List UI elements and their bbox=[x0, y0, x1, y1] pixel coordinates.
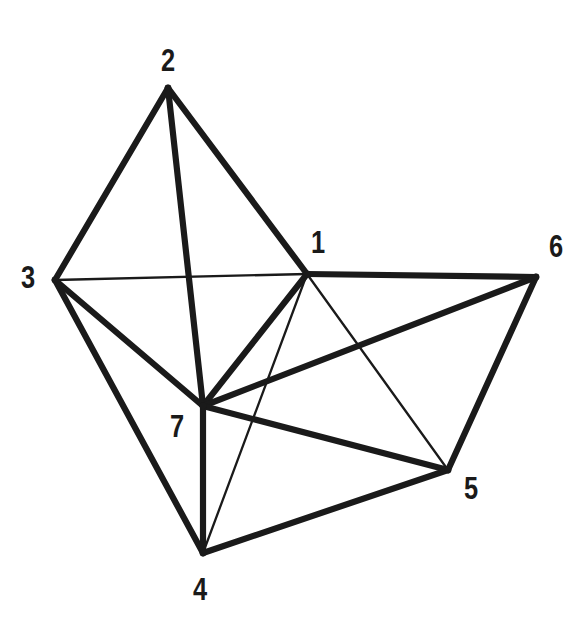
vertex-label-4: 4 bbox=[193, 574, 207, 605]
graph-vertex-2 bbox=[165, 85, 172, 92]
graph-vertex-1 bbox=[304, 271, 311, 278]
graph-edge-3-7 bbox=[55, 280, 203, 406]
vertex-label-1: 1 bbox=[311, 227, 325, 258]
vertex-label-3: 3 bbox=[21, 262, 35, 293]
graph-canvas bbox=[0, 0, 571, 624]
graph-vertex-7 bbox=[200, 403, 207, 410]
graph-edge-2-3 bbox=[55, 88, 168, 280]
graph-vertex-4 bbox=[200, 550, 207, 557]
vertex-label-5: 5 bbox=[464, 473, 478, 504]
graph-edge-1-4 bbox=[203, 274, 307, 553]
graph-edge-1-6 bbox=[307, 274, 536, 277]
graph-vertex-5 bbox=[445, 467, 452, 474]
vertex-label-2: 2 bbox=[161, 45, 175, 76]
vertex-label-6: 6 bbox=[549, 231, 563, 262]
graph-edge-2-7 bbox=[168, 88, 203, 406]
graph-vertex-6 bbox=[533, 274, 540, 281]
graph-diagram: 1234567 bbox=[0, 0, 571, 624]
graph-edge-4-5 bbox=[203, 470, 448, 553]
graph-edge-2-1 bbox=[168, 88, 307, 274]
graph-edge-3-1 bbox=[55, 274, 307, 280]
vertex-label-7: 7 bbox=[170, 411, 184, 442]
graph-edge-7-5 bbox=[203, 406, 448, 470]
graph-vertex-3 bbox=[52, 277, 59, 284]
